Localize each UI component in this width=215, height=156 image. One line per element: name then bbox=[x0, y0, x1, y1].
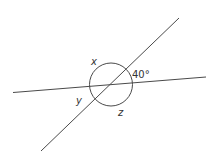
diagonal-line bbox=[41, 18, 179, 151]
label-z: z bbox=[117, 107, 124, 118]
diagram-canvas: x 40° y z bbox=[0, 0, 215, 156]
label-x: x bbox=[90, 56, 97, 67]
angle-diagram: x 40° y z bbox=[0, 0, 215, 156]
label-y: y bbox=[75, 95, 83, 106]
label-40-degrees: 40° bbox=[132, 69, 150, 80]
